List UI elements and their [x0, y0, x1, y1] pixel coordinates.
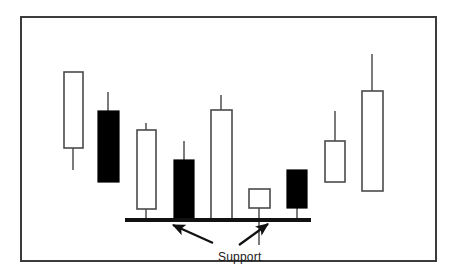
candle-2-body [98, 111, 119, 182]
candle-9-body [362, 91, 383, 191]
candle-2 [98, 92, 119, 182]
chart-frame-border: Support [20, 16, 437, 262]
candles-group [64, 54, 383, 245]
candlestick-plot-area: Support [22, 18, 435, 260]
candle-3-body [137, 130, 156, 209]
candle-4 [174, 141, 194, 220]
candlestick-svg [22, 18, 435, 260]
candle-7 [287, 170, 307, 220]
candle-5 [211, 95, 232, 220]
candle-6-body [249, 189, 270, 208]
screenshot-root: Support [0, 0, 455, 277]
candle-8-body [325, 141, 345, 182]
candle-1-body [64, 72, 83, 148]
candle-3 [137, 123, 156, 220]
support-annotation-label: Support [218, 250, 261, 264]
candle-1 [64, 72, 83, 170]
candle-8 [325, 111, 345, 182]
candle-4-body [174, 160, 194, 220]
candle-7-body [287, 170, 307, 208]
candle-9 [362, 54, 383, 191]
candle-5-body [211, 110, 232, 220]
support-arrow-left [173, 225, 213, 243]
support-arrow-right [239, 224, 268, 245]
